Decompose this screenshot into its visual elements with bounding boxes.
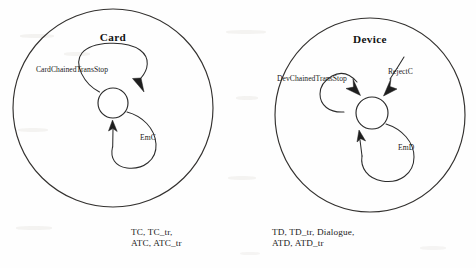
- card-gates-line-2: ATC, ATC_tr: [131, 238, 182, 248]
- card-gates-line-1: TC, TC_tr,: [131, 227, 173, 237]
- card-component: Card CardChainedTransStop EmC TC, TC_tr,…: [13, 9, 213, 248]
- card-chained-trans-stop-label: CardChainedTransStop: [36, 65, 108, 74]
- device-component: Device DevChainedTransStop RejectC EmD T…: [272, 18, 465, 248]
- dev-rejectc-label: RejectC: [388, 67, 413, 76]
- state-machine-diagram: Card CardChainedTransStop EmC TC, TC_tr,…: [0, 0, 476, 268]
- dev-rejectc-arrowhead: [384, 79, 398, 97]
- device-gates-line-1: TD, TD_tr, Dialogue,: [272, 227, 354, 237]
- device-title: Device: [353, 33, 387, 45]
- card-chained-trans-stop-arrowhead: [133, 78, 145, 92]
- device-state-circle: [356, 97, 388, 129]
- dev-emd-edge-tail: [360, 140, 362, 156]
- dev-emd-label: EmD: [398, 143, 415, 152]
- dev-emd-edge: [362, 124, 414, 182]
- dev-emd-arrowhead: [357, 130, 366, 142]
- figure-canvas: Card CardChainedTransStop EmC TC, TC_tr,…: [0, 0, 476, 268]
- dev-chained-trans-stop-arrowhead: [346, 79, 361, 96]
- dev-chained-trans-stop-label: DevChainedTransStop: [277, 74, 347, 83]
- card-state-circle: [98, 88, 128, 118]
- card-title: Card: [100, 31, 127, 43]
- card-emc-label: EmC: [140, 133, 156, 142]
- device-gates-line-2: ATD, ATD_tr: [272, 238, 324, 248]
